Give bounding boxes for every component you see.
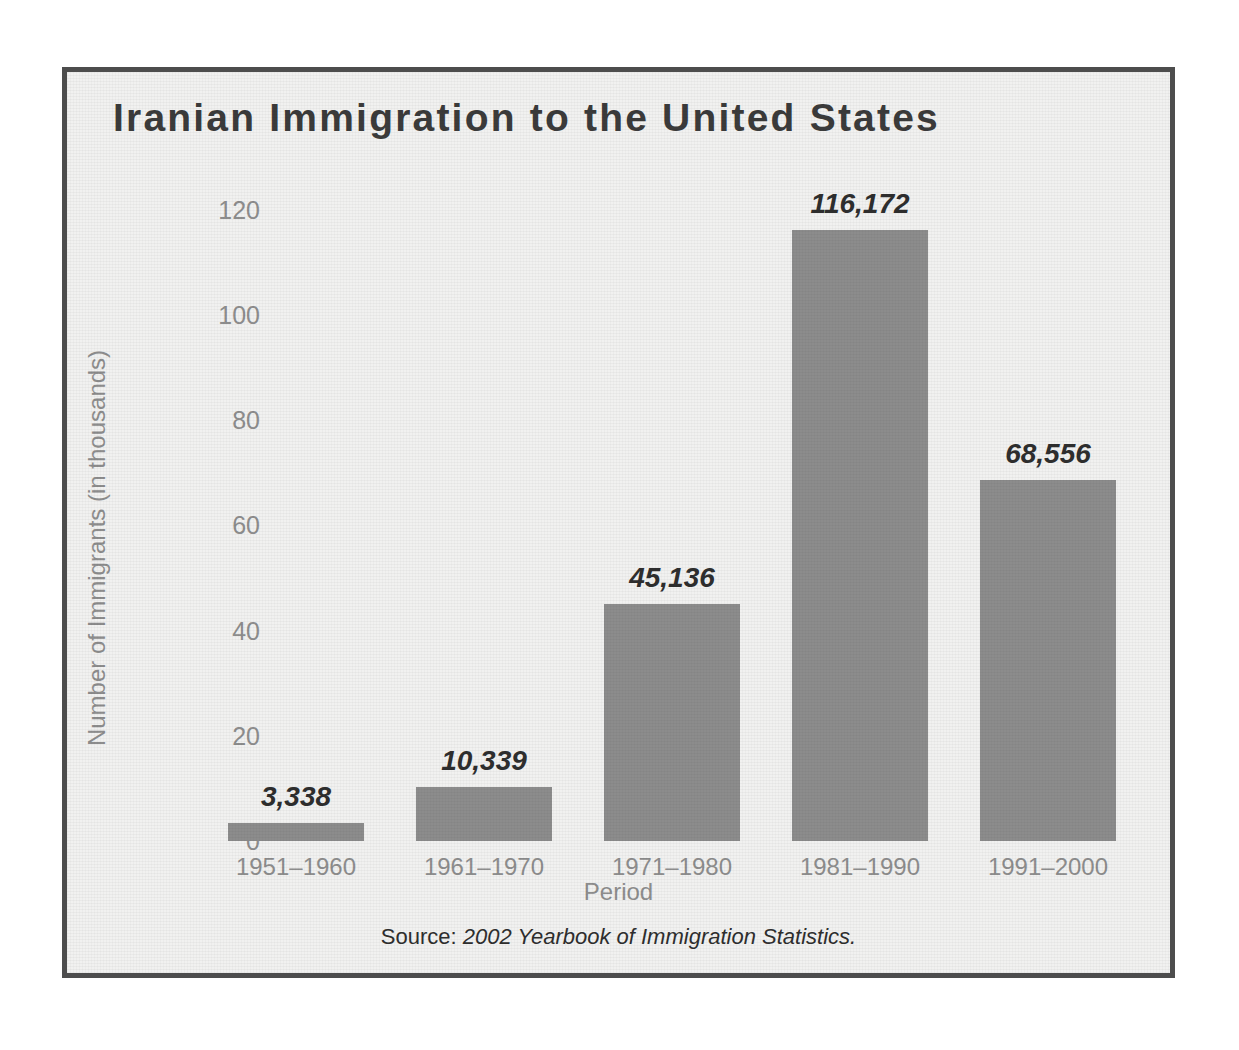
x-axis-tick-label: 1951–1960	[186, 853, 406, 881]
bar-value-label: 68,556	[940, 438, 1156, 470]
source-title: 2002 Yearbook of Immigration Statistics.	[463, 924, 856, 949]
x-axis-tick-label: 1961–1970	[374, 853, 594, 881]
bar-value-label: 45,136	[564, 562, 780, 594]
bar-group[interactable]: 116,172	[792, 72, 928, 841]
bar-rect[interactable]	[228, 823, 364, 841]
x-axis-tick-label: 1971–1980	[562, 853, 782, 881]
bar-group[interactable]: 68,556	[980, 72, 1116, 841]
x-axis-tick-label: 1981–1990	[750, 853, 970, 881]
bar-rect[interactable]	[416, 787, 552, 841]
y-axis-title: Number of Immigrants (in thousands)	[83, 328, 111, 768]
x-axis-tick-label: 1991–2000	[938, 853, 1158, 881]
bar-value-label: 10,339	[376, 745, 592, 777]
source-note: Source: 2002 Yearbook of Immigration Sta…	[67, 924, 1170, 950]
bar-group[interactable]: 45,136	[604, 72, 740, 841]
bar-rect[interactable]	[980, 480, 1116, 841]
bar-group[interactable]: 3,338	[228, 72, 364, 841]
bar-rect[interactable]	[604, 604, 740, 841]
source-prefix: Source:	[381, 924, 457, 949]
figure-frame: Iranian Immigration to the United States…	[62, 67, 1175, 978]
bar-value-label: 116,172	[752, 188, 968, 220]
bar-rect[interactable]	[792, 230, 928, 841]
plot-area: Number of Immigrants (in thousands) 0204…	[67, 72, 1170, 973]
bar-group[interactable]: 10,339	[416, 72, 552, 841]
x-axis-title: Period	[67, 878, 1170, 906]
bar-value-label: 3,338	[188, 781, 404, 813]
